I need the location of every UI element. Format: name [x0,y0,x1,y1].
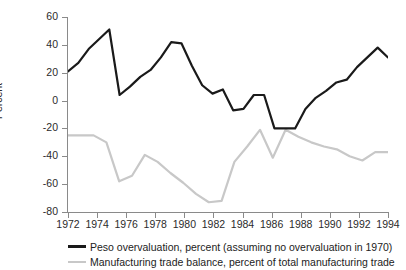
legend-swatch-dark-line-icon [68,245,86,248]
x-tick-label: 1990 [318,218,341,230]
chart-figure: Percent 6040200-20-40-60-80 197219741976… [0,0,406,270]
x-tick-label: 1992 [347,218,370,230]
y-tick [62,101,67,102]
x-tick-label: 1976 [114,218,137,230]
y-tick [62,212,67,213]
y-tick [62,184,67,185]
x-tick-label: 1994 [376,218,399,230]
legend-item-peso-overvaluation: Peso overvaluation, percent (assuming no… [68,239,406,254]
x-tick-label: 1984 [231,218,254,230]
plot-area [68,17,388,212]
y-axis-title: Percent [0,83,4,119]
y-tick [62,128,67,129]
y-tick [62,156,67,157]
x-tick-label: 1980 [173,218,196,230]
legend-swatch-gray-line-icon [68,261,86,263]
x-axis-line [67,212,389,213]
chart-legend: Peso overvaluation, percent (assuming no… [68,239,406,269]
x-tick-label: 1972 [56,218,79,230]
x-tick-label: 1988 [289,218,312,230]
series-svg [68,17,388,212]
x-tick-label: 1974 [85,218,108,230]
legend-item-manufacturing-trade-balance: Manufacturing trade balance, percent of … [68,254,406,269]
x-tick-label: 1978 [144,218,167,230]
x-tick-label: 1982 [202,218,225,230]
y-tick [62,73,67,74]
y-tick [62,45,67,46]
x-tick-label: 1986 [260,218,283,230]
series-line-peso-overvaluation [68,30,388,129]
legend-label: Peso overvaluation, percent (assuming no… [90,241,392,253]
series-line-manufacturing-trade-balance [68,130,388,202]
y-tick [62,17,67,18]
legend-label: Manufacturing trade balance, percent of … [90,256,395,268]
